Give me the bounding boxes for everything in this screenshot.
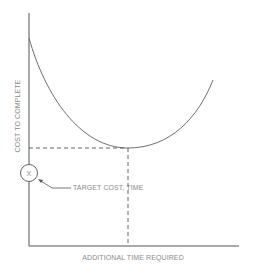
- target-label: TARGET COST, TIME: [73, 184, 144, 191]
- cost-curve: [29, 38, 213, 148]
- target-arrow: [41, 181, 71, 188]
- arrow-head-icon: [38, 179, 43, 183]
- x-axis-label: ADDITIONAL TIME REQUIRED: [82, 254, 184, 262]
- y-axis-label: COST TO COMPLETE: [14, 79, 21, 152]
- cost-time-diagram: X TARGET COST, TIME ADDITIONAL TIME REQU…: [0, 0, 253, 271]
- target-marker-x-icon: X: [27, 170, 32, 177]
